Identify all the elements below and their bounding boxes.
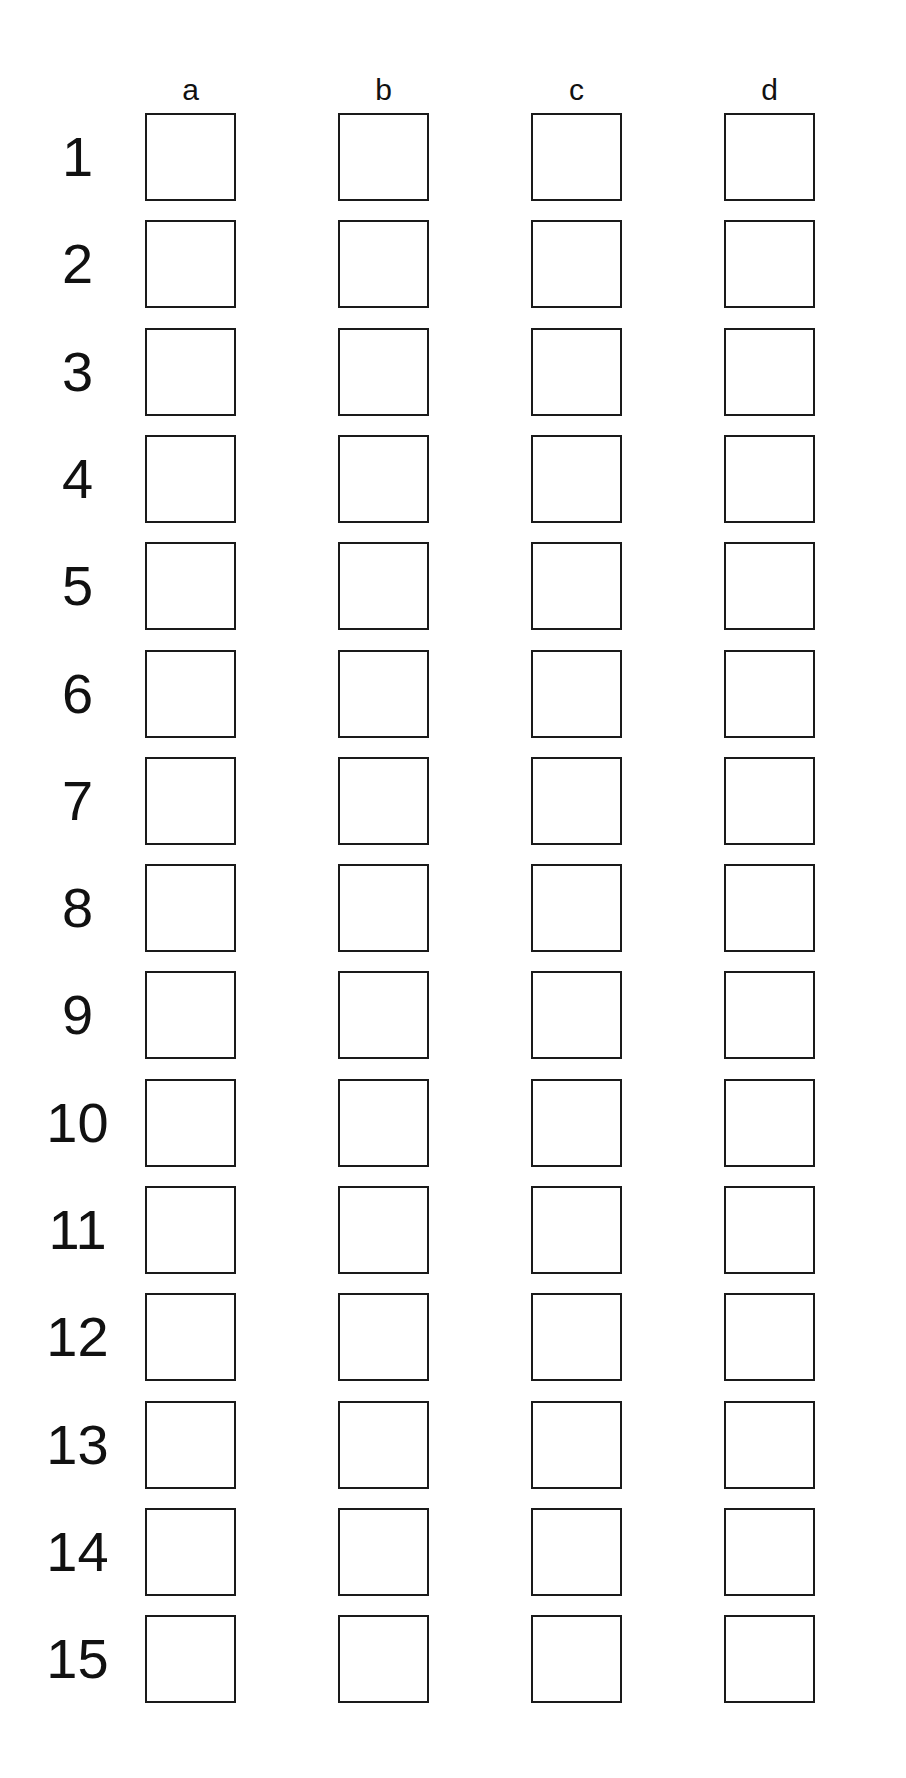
dark-left-light-right-icon (340, 1188, 427, 1272)
row-label-15: 15 (20, 1615, 135, 1703)
option-13b[interactable] (338, 1401, 429, 1489)
column-header-a: a (145, 70, 236, 110)
option-9d[interactable] (724, 971, 815, 1059)
option-15c[interactable] (531, 1615, 622, 1703)
option-8a[interactable] (145, 864, 236, 952)
option-13c[interactable] (531, 1401, 622, 1489)
option-11d[interactable] (724, 1186, 815, 1274)
v-shape-icon (533, 973, 620, 1057)
large-triangle-icon (726, 544, 813, 628)
vertical-stripes-dark-light-mid-icon (147, 330, 234, 414)
option-8c[interactable] (531, 864, 622, 952)
small-circle-icon (147, 544, 234, 628)
option-10c[interactable] (531, 1079, 622, 1167)
apple-icon (340, 652, 427, 736)
option-14c[interactable] (531, 1508, 622, 1596)
option-14d[interactable] (724, 1508, 815, 1596)
dark-round-fruit-icon (726, 652, 813, 736)
option-12a[interactable] (145, 1293, 236, 1381)
option-5d[interactable] (724, 542, 815, 630)
row-label-14: 14 (20, 1508, 135, 1596)
row-label-13: 13 (20, 1401, 135, 1489)
angle-bottom-left-icon (147, 1617, 234, 1701)
option-13d[interactable] (724, 1401, 815, 1489)
row-label-6: 6 (20, 650, 135, 738)
glass-quarter-icon (533, 1403, 620, 1487)
option-9b[interactable] (338, 971, 429, 1059)
option-1c[interactable] (531, 113, 622, 201)
u-shape-large-dot-icon (533, 759, 620, 843)
option-14b[interactable] (338, 1508, 429, 1596)
option-7b[interactable] (338, 757, 429, 845)
option-6b[interactable] (338, 650, 429, 738)
option-3d[interactable] (724, 328, 815, 416)
large-circle-icon (340, 544, 427, 628)
option-9c[interactable] (531, 971, 622, 1059)
glass-half-icon (340, 1403, 427, 1487)
dark-fish-facing-left-icon (533, 437, 620, 521)
hexagon-dot-left-icon (726, 1081, 813, 1165)
square-with-black-square-icon (340, 222, 427, 306)
option-11b[interactable] (338, 1186, 429, 1274)
option-2c[interactable] (531, 220, 622, 308)
leaf-right-half-filled-icon (147, 1295, 234, 1379)
option-5a[interactable] (145, 542, 236, 630)
option-9a[interactable] (145, 971, 236, 1059)
option-1b[interactable] (338, 113, 429, 201)
row-label-5: 5 (20, 542, 135, 630)
option-1d[interactable] (724, 113, 815, 201)
triangle-with-black-triangle-icon (533, 222, 620, 306)
angle-vertical-left-stroke-icon (533, 1617, 620, 1701)
option-6d[interactable] (724, 650, 815, 738)
option-10a[interactable] (145, 1079, 236, 1167)
option-6a[interactable] (145, 650, 236, 738)
option-14a[interactable] (145, 1508, 236, 1596)
option-7d[interactable] (724, 757, 815, 845)
option-2a[interactable] (145, 220, 236, 308)
inverted-v-shape-icon (726, 973, 813, 1057)
option-4b[interactable] (338, 435, 429, 523)
hexagon-dot-top-icon (340, 1081, 427, 1165)
option-15d[interactable] (724, 1615, 815, 1703)
option-10d[interactable] (724, 1079, 815, 1167)
option-4a[interactable] (145, 435, 236, 523)
option-12c[interactable] (531, 1293, 622, 1381)
column-header-c: c (531, 70, 622, 110)
option-10b[interactable] (338, 1079, 429, 1167)
row-label-7: 7 (20, 757, 135, 845)
option-3c[interactable] (531, 328, 622, 416)
option-6c[interactable] (531, 650, 622, 738)
option-12d[interactable] (724, 1293, 815, 1381)
triangle-pointing-left-icon (147, 115, 234, 199)
option-15a[interactable] (145, 1615, 236, 1703)
light-round-fruit-icon (147, 652, 234, 736)
glass-full-icon (147, 1403, 234, 1487)
option-11a[interactable] (145, 1186, 236, 1274)
fish-facing-left-icon (147, 437, 234, 521)
option-13a[interactable] (145, 1401, 236, 1489)
option-2b[interactable] (338, 220, 429, 308)
option-11c[interactable] (531, 1186, 622, 1274)
option-4d[interactable] (724, 435, 815, 523)
vertical-stripes-mid-dark-light-icon (533, 330, 620, 414)
leaf-fully-filled-icon (340, 1295, 427, 1379)
option-2d[interactable] (724, 220, 815, 308)
option-12b[interactable] (338, 1293, 429, 1381)
option-5c[interactable] (531, 542, 622, 630)
light-left-gray-right-2-icon (533, 1188, 620, 1272)
option-3b[interactable] (338, 328, 429, 416)
hexagon-dot-right-icon (147, 1081, 234, 1165)
row-label-4: 4 (20, 435, 135, 523)
option-15b[interactable] (338, 1615, 429, 1703)
option-7c[interactable] (531, 757, 622, 845)
option-4c[interactable] (531, 435, 622, 523)
option-7a[interactable] (145, 757, 236, 845)
option-1a[interactable] (145, 113, 236, 201)
option-3a[interactable] (145, 328, 236, 416)
option-5b[interactable] (338, 542, 429, 630)
row-label-10: 10 (20, 1079, 135, 1167)
option-8d[interactable] (724, 864, 815, 952)
option-8b[interactable] (338, 864, 429, 952)
row-label-9: 9 (20, 971, 135, 1059)
x-sign-icon (340, 973, 427, 1057)
